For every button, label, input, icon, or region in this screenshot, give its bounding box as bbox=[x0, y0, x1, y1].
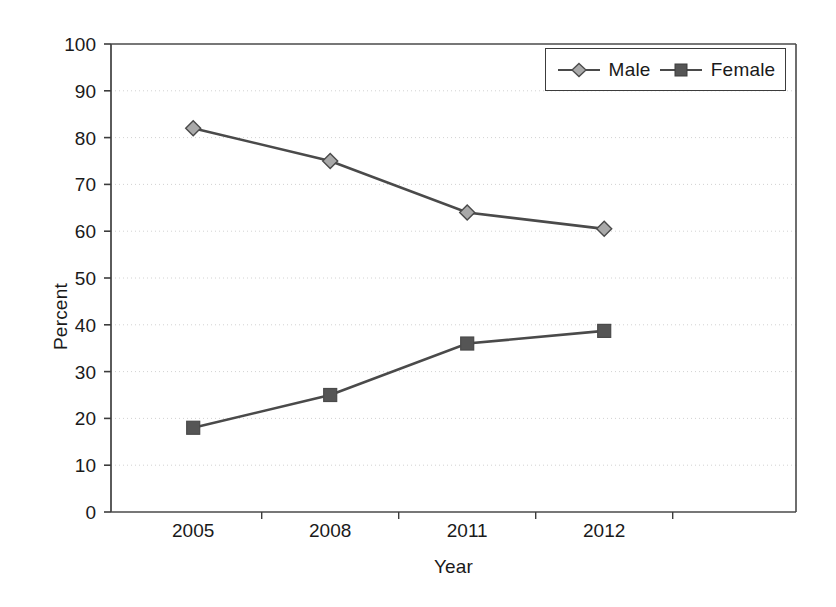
axis-frame bbox=[111, 44, 796, 512]
x-axis-title: Year bbox=[111, 556, 796, 578]
female-line-marker-icon bbox=[658, 61, 704, 79]
legend-label-female: Female bbox=[711, 59, 776, 81]
chart-figure: Percent 0102030405060708090100 200520082… bbox=[0, 0, 836, 607]
x-tick-label: 2005 bbox=[172, 520, 214, 542]
male-line-marker-icon bbox=[556, 61, 602, 79]
gridlines bbox=[111, 91, 796, 465]
legend-item-female[interactable]: Female bbox=[658, 59, 776, 81]
x-axis-ticks bbox=[262, 512, 673, 519]
x-tick-label: 2012 bbox=[583, 520, 625, 542]
y-axis-ticks bbox=[104, 44, 111, 512]
plot-area bbox=[0, 0, 836, 607]
legend-item-male[interactable]: Male bbox=[556, 59, 651, 81]
legend-label-male: Male bbox=[609, 59, 651, 81]
legend[interactable]: Male Female bbox=[545, 48, 786, 91]
x-tick-label: 2011 bbox=[447, 520, 488, 542]
x-axis-tick-labels: 2005200820112012 bbox=[0, 520, 836, 550]
x-tick-label: 2008 bbox=[309, 520, 351, 542]
